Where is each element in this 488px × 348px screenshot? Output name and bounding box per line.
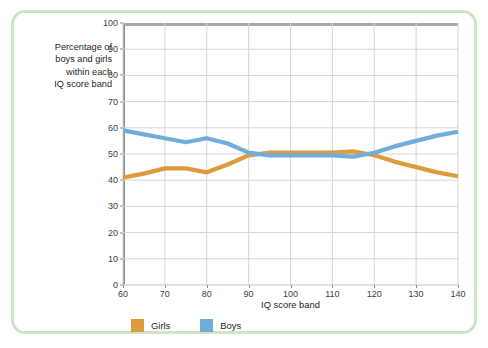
y-tick-mark bbox=[120, 127, 123, 128]
y-tick-label: 30 bbox=[108, 201, 118, 211]
x-tick-label: 60 bbox=[118, 289, 128, 299]
y-tick-mark bbox=[120, 101, 123, 102]
x-tick-label: 130 bbox=[409, 289, 424, 299]
caption-line: IQ score band bbox=[28, 78, 112, 90]
x-tick-label: 70 bbox=[160, 289, 170, 299]
y-tick-label: 70 bbox=[108, 97, 118, 107]
y-tick-mark bbox=[120, 49, 123, 50]
y-tick-mark bbox=[120, 258, 123, 259]
x-tick-mark bbox=[123, 285, 124, 288]
y-tick-label: 10 bbox=[108, 254, 118, 264]
y-tick-mark bbox=[120, 232, 123, 233]
x-tick-mark bbox=[207, 285, 208, 288]
series-lines bbox=[123, 23, 458, 285]
x-tick-mark bbox=[416, 285, 417, 288]
plot-wrapper: 0102030405060708090100607080901001101201… bbox=[123, 23, 458, 285]
caption-line: Percentage of bbox=[28, 41, 112, 53]
x-tick-mark bbox=[165, 285, 166, 288]
legend-label-girls: Girls bbox=[151, 320, 170, 331]
chart-caption: Percentage of boys and girls within each… bbox=[28, 41, 112, 91]
x-tick-mark bbox=[291, 285, 292, 288]
legend-item-boys: Boys bbox=[200, 319, 241, 332]
x-tick-label: 120 bbox=[367, 289, 382, 299]
chart-legend: Girls Boys bbox=[123, 319, 466, 332]
x-tick-label: 140 bbox=[450, 289, 465, 299]
y-tick-label: 100 bbox=[103, 18, 118, 28]
x-tick-mark bbox=[249, 285, 250, 288]
caption-line: boys and girls bbox=[28, 53, 112, 65]
legend-swatch-boys bbox=[200, 319, 213, 332]
y-tick-label: 60 bbox=[108, 123, 118, 133]
x-tick-mark bbox=[374, 285, 375, 288]
x-tick-label: 90 bbox=[244, 289, 254, 299]
x-axis-title: IQ score band bbox=[123, 299, 458, 310]
y-tick-mark bbox=[120, 23, 123, 24]
figure-card: Percentage of boys and girls within each… bbox=[11, 10, 477, 334]
legend-swatch-girls bbox=[131, 319, 144, 332]
x-tick-label: 80 bbox=[202, 289, 212, 299]
y-tick-label: 90 bbox=[108, 44, 118, 54]
y-tick-label: 80 bbox=[108, 70, 118, 80]
y-tick-label: 40 bbox=[108, 175, 118, 185]
y-tick-mark bbox=[120, 154, 123, 155]
y-tick-mark bbox=[120, 75, 123, 76]
x-tick-mark bbox=[458, 285, 459, 288]
legend-item-girls: Girls bbox=[131, 319, 170, 332]
y-tick-label: 50 bbox=[108, 149, 118, 159]
y-tick-mark bbox=[120, 180, 123, 181]
y-tick-label: 20 bbox=[108, 228, 118, 238]
legend-label-boys: Boys bbox=[220, 320, 241, 331]
x-tick-mark bbox=[332, 285, 333, 288]
y-tick-mark bbox=[120, 206, 123, 207]
x-tick-label: 100 bbox=[283, 289, 298, 299]
x-tick-label: 110 bbox=[325, 289, 339, 299]
caption-line: within each bbox=[28, 66, 112, 78]
